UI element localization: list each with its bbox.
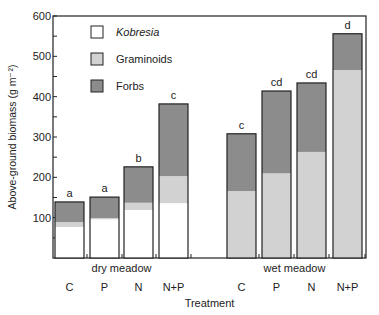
bar-segment-graminoids [262,173,291,258]
significance-letter: a [101,182,108,194]
x-tick-label: P [273,281,280,293]
x-tick-label: N [308,281,316,293]
legend-swatch-kobresia [91,26,103,38]
bar-segment-forbs [333,34,362,70]
y-tick-label: 300 [33,131,51,143]
bar-segment-graminoids [227,191,256,258]
bar-segment-kobresia [90,219,119,258]
y-tick-label: 500 [33,50,51,62]
x-axis-label: Treatment [185,297,235,309]
legend-label-graminoids: Graminoids [116,53,173,65]
bar-segment-kobresia [124,210,153,258]
x-tick-label: N+P [337,281,359,293]
bar-segment-forbs [227,134,256,191]
bar-segment-graminoids [297,152,326,258]
significance-letter: d [344,19,350,31]
x-tick-label: C [238,281,246,293]
bar-segment-graminoids [55,222,84,227]
y-tick-label: 400 [33,91,51,103]
legend-swatch-forbs [91,80,103,92]
bar-segment-kobresia [159,203,188,258]
bar-segment-forbs [297,83,326,152]
bar-segment-graminoids [90,218,119,219]
bar-segment-graminoids [124,203,153,210]
y-axis-label: Above-ground biomass (g m⁻²) [6,65,18,210]
x-tick-label: N [135,281,143,293]
bar-segment-forbs [90,197,119,218]
group-label: wet meadow [263,262,326,274]
significance-letter: b [135,152,141,164]
x-tick-label: P [101,281,108,293]
bar-segment-forbs [124,167,153,203]
significance-letter: c [239,119,245,131]
legend-label-kobresia: Kobresia [116,26,159,38]
bar-segment-forbs [55,202,84,222]
legend-swatch-graminoids [91,53,103,65]
legend-label-forbs: Forbs [116,80,145,92]
group-label: dry meadow [92,262,152,274]
y-tick-label: 100 [33,212,51,224]
biomass-chart: 100200300400500600Above-ground biomass (… [0,0,379,315]
significance-letter: c [171,89,177,101]
x-tick-label: N+P [163,281,185,293]
bar-segment-kobresia [55,227,84,258]
bar-segment-graminoids [159,176,188,203]
bar-segment-forbs [159,104,188,176]
y-tick-label: 200 [33,171,51,183]
x-tick-label: C [66,281,74,293]
y-tick-label: 600 [33,10,51,22]
significance-letter: a [66,187,73,199]
bar-segment-forbs [262,91,291,173]
bar-segment-graminoids [333,70,362,258]
significance-letter: cd [271,76,283,88]
significance-letter: cd [306,68,318,80]
